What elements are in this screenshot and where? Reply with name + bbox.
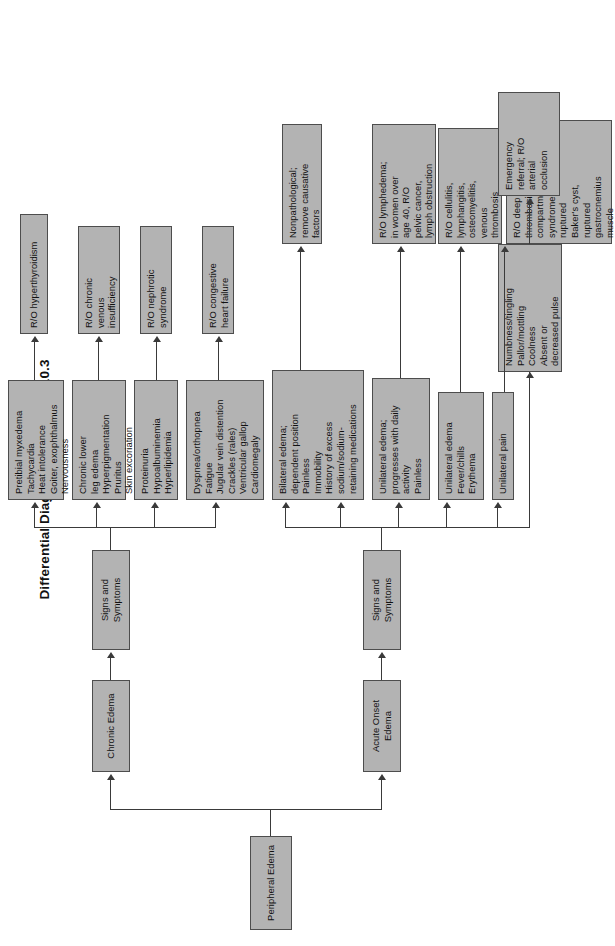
- arrow-nephrotic-out: [153, 336, 161, 342]
- connector-lymphedema-out: [400, 252, 401, 378]
- connector-unilateral-pain-out: [504, 252, 505, 392]
- connector-to-chronic: [110, 780, 111, 810]
- node-symptoms-infection[interactable]: Unilateral edema Fever/chills Erythema: [438, 392, 484, 500]
- connector-chf-out: [218, 342, 219, 380]
- arrow-chronic-branch-1: [31, 502, 39, 508]
- node-signs-acute[interactable]: Signs and Symptoms: [363, 550, 401, 650]
- connector-to-arterial: [529, 372, 530, 528]
- node-outcome-nonpathological[interactable]: Nonpathological; remove causative factor…: [282, 124, 322, 244]
- node-symptoms-bilateral[interactable]: Bilateral edema; dependent position Pain…: [272, 370, 364, 500]
- connector-infection-out: [460, 252, 461, 392]
- arrow-venous-out: [95, 336, 103, 342]
- connector-acute-to-signs: [381, 658, 382, 680]
- node-root[interactable]: Peripheral Edema: [250, 836, 292, 930]
- node-signs-chronic[interactable]: Signs and Symptoms: [92, 550, 130, 650]
- node-outcome-arterial[interactable]: Emergency referral; R/O arterial occlusi…: [498, 92, 560, 196]
- arrow-acute-branch-2: [337, 502, 345, 508]
- arrow-to-chronic: [107, 774, 115, 780]
- node-outcome-thyroid[interactable]: R/O hyperthyroidism: [20, 214, 48, 334]
- connector-chronic-branch-4: [215, 508, 216, 528]
- node-outcome-cellulitis[interactable]: R/O cellulitis, lymphangitis, osteomyeli…: [438, 128, 502, 244]
- node-chronic-edema[interactable]: Chronic Edema: [92, 680, 130, 772]
- node-acute-onset-edema[interactable]: Acute Onset Edema: [363, 680, 401, 772]
- connector-acute-branch-5: [497, 508, 498, 528]
- arrow-to-acute: [378, 774, 386, 780]
- connector-chronic-branch-1: [34, 508, 35, 528]
- connector-venous-out: [98, 342, 99, 380]
- arrow-arterial-out: [526, 198, 534, 204]
- arrow-to-arterial: [526, 372, 534, 378]
- connector-acute-signs-stem: [381, 528, 382, 550]
- node-outcome-lymphedema[interactable]: R/O lymphedema; in women over age 40, R/…: [372, 124, 436, 244]
- connector-bilateral-out: [300, 252, 301, 370]
- connector-chronic-branch-3: [154, 508, 155, 528]
- connector-chronic-bus: [34, 527, 216, 528]
- arrow-lymphedema-out: [397, 246, 405, 252]
- connector-chronic-signs-stem: [110, 528, 111, 550]
- arrow-unilateral-pain-out: [501, 246, 509, 252]
- connector-chronic-to-signs: [110, 658, 111, 680]
- connector-acute-branch-1: [285, 508, 286, 528]
- arrow-acute-branch-5: [494, 502, 502, 508]
- connector-root-split: [110, 809, 382, 810]
- arrow-chf-out: [215, 336, 223, 342]
- arrow-acute-branch-1: [282, 502, 290, 508]
- node-symptoms-nephrotic[interactable]: Proteinuria Hypoalbuminemia Hyperlipidem…: [134, 380, 178, 500]
- connector-nephrotic-out: [156, 342, 157, 380]
- node-symptoms-chf[interactable]: Dyspnea/orthopnea Fatigue Jugular vein d…: [186, 380, 264, 500]
- arrow-acute-branch-4: [443, 502, 451, 508]
- connector-acute-bus-top: [497, 527, 530, 528]
- connector-acute-branch-4: [446, 508, 447, 528]
- arrow-acute-to-signs: [378, 652, 386, 658]
- arrow-bilateral-out: [297, 246, 305, 252]
- node-symptoms-lymphedema[interactable]: Unilateral edema; progresses with daily …: [372, 378, 430, 500]
- arrow-infection-out: [457, 246, 465, 252]
- arrow-chronic-branch-3: [151, 502, 159, 508]
- connector-acute-branch-2: [340, 508, 341, 528]
- connector-acute-branch-3: [398, 508, 399, 528]
- connector-to-acute: [381, 780, 382, 810]
- arrow-acute-branch-3: [395, 502, 403, 508]
- arrow-chronic-branch-2: [93, 502, 101, 508]
- node-symptoms-venous[interactable]: Chronic lower leg edema Hyperpigmentatio…: [72, 380, 126, 500]
- connector-thyroid-out: [34, 342, 35, 380]
- arrow-chronic-branch-4: [212, 502, 220, 508]
- node-outcome-venous[interactable]: R/O chronic venous insufficiency: [78, 226, 120, 334]
- arrow-chronic-to-signs: [107, 652, 115, 658]
- node-symptoms-thyroid[interactable]: Pretibial myxedema Tachycardia Heat into…: [8, 380, 64, 500]
- connector-acute-bus: [285, 527, 497, 528]
- node-symptoms-arterial[interactable]: Numbness/tingling Pallor/mottling Coolne…: [498, 244, 562, 372]
- connector-arterial-out: [529, 204, 530, 244]
- arrow-thyroid-out: [31, 336, 39, 342]
- node-outcome-nephrotic[interactable]: R/O nephrotic syndrome: [140, 226, 172, 334]
- node-symptoms-unilateral-pain[interactable]: Unilateral pain: [492, 392, 514, 500]
- connector-root-stem: [270, 810, 271, 836]
- connector-chronic-branch-2: [96, 508, 97, 528]
- node-outcome-chf[interactable]: R/O congestive heart failure: [202, 226, 234, 334]
